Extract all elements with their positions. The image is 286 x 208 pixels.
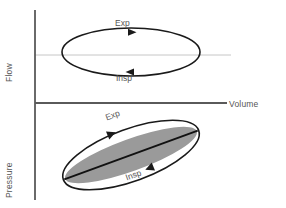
flow-exp-arrow-icon [128,29,137,36]
flow-volume-insp-label: Insp [116,73,132,83]
flow-volume-loop-curve [62,28,200,76]
y-axis-label-flow: Flow [4,63,14,82]
flow-volume-exp-label: Exp [115,18,130,28]
y-axis-label-pressure: Pressure [4,162,14,198]
x-axis-label-volume: Volume [229,99,259,109]
pressure-volume-loop [54,106,207,204]
flow-volume-loop [62,28,200,76]
